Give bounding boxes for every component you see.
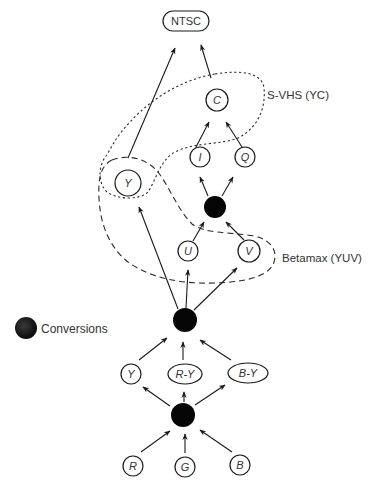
node-b: B [230,455,250,475]
b-label: B [236,459,243,471]
iq-conversion-node [204,196,226,218]
edge-u-to-iq-conversion [193,222,204,241]
edge-i-to-c [196,122,209,147]
node-ntsc: NTSC [163,11,209,31]
node-c: C [206,89,228,111]
node-v: V [238,240,260,262]
node-y-lower: Y [121,364,141,384]
ntsc-label: NTSC [171,15,201,27]
edge-yuv-conversion-to-y-upper [139,207,178,309]
c-label: C [213,94,221,106]
edge-b-minus-y-to-yuv-conversion [200,340,231,360]
node-y-upper: Y [115,170,141,196]
node-q: Q [235,147,255,167]
i-label: I [198,151,201,163]
node-r: R [123,456,143,476]
rgb-conversion-node [171,403,195,427]
node-u: U [178,241,198,261]
r-minus-y-label: R-Y [176,368,196,380]
node-i: I [190,147,210,167]
edge-y-upper-to-ntsc [128,48,175,158]
edge-y-lower-to-yuv-conversion [139,338,167,360]
g-label: G [181,461,190,473]
edge-q-to-c [226,122,242,147]
edge-yuv-conversion-to-u [186,270,188,308]
edge-c-to-ntsc [201,45,211,78]
u-label: U [184,245,192,257]
b-minus-y-label: B-Y [239,367,258,379]
legend-label: Conversions [41,322,108,336]
y-upper-label: Y [124,177,132,189]
edge-b-to-rgb-conversion [200,430,232,452]
yuv-conversion-node [173,308,197,332]
node-r-minus-y: R-Y [168,364,202,384]
legend: Conversions [15,317,108,339]
q-label: Q [241,151,250,163]
y-lower-label: Y [127,368,135,380]
conversion-legend-dot-icon [15,317,37,339]
edge-yuv-conversion-to-v [194,268,237,310]
r-label: R [129,460,137,472]
edge-rgb-conversion-to-b-minus-y [195,385,225,405]
edge-v-to-iq-conversion [226,222,244,240]
svhs-group-label: S-VHS (YC) [267,89,329,101]
node-g: G [175,457,195,477]
edge-iq-conversion-to-i [200,177,208,196]
edge-iq-conversion-to-q [222,177,233,196]
video-format-diagram: S-VHS (YC) Betamax (YUV) NTSC C I Q Y [0,0,378,492]
betamax-group-label: Betamax (YUV) [282,252,362,264]
node-b-minus-y: B-Y [228,363,268,383]
edge-rgb-conversion-to-y-lower [143,387,170,406]
edge-r-to-rgb-conversion [141,431,170,452]
